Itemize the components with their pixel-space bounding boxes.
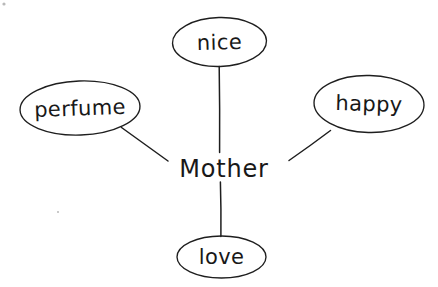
word-web-canvas: nice perfume happy love Mother — [0, 0, 438, 287]
speck-top-left-icon — [2, 2, 5, 5]
node-love[interactable]: love — [177, 236, 266, 278]
node-happy[interactable]: happy — [313, 74, 424, 134]
edge-mother-love — [220, 182, 221, 237]
speck-lower-left-icon — [57, 211, 59, 213]
node-nice-label: nice — [197, 30, 243, 55]
node-happy-label: happy — [335, 91, 403, 117]
center-mother-label: Mother — [179, 155, 268, 183]
node-love-label: love — [199, 245, 245, 269]
node-perfume-label: perfume — [34, 95, 127, 122]
word-web-diagram: nice perfume happy love Mother — [0, 0, 438, 287]
edge-mother-happy — [289, 131, 331, 161]
center-mother[interactable]: Mother — [179, 155, 268, 183]
edge-mother-perfume — [122, 128, 169, 162]
node-nice[interactable]: nice — [172, 16, 267, 67]
edge-group — [122, 67, 331, 237]
